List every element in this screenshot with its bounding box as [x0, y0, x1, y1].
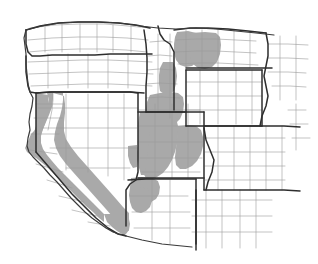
- map-figure: [0, 0, 318, 264]
- map-canvas: [0, 0, 318, 264]
